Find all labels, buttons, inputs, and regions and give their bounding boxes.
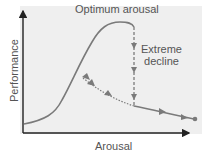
decline-label-line1: Extreme — [141, 43, 182, 55]
x-axis-label: Arousal — [95, 140, 132, 152]
arrowhead-right-icon — [159, 108, 166, 115]
optimum-arousal-label: Optimum arousal — [75, 3, 159, 15]
catastrophe-diagram — [0, 0, 206, 154]
arrowhead-left-icon — [82, 73, 90, 80]
arrowhead-left-icon — [104, 90, 112, 96]
performance-curve — [24, 22, 134, 124]
end-point-dot — [193, 117, 198, 122]
y-axis-label: Performance — [8, 42, 20, 102]
extreme-decline-label: Extreme decline — [141, 43, 182, 67]
arrowhead-down-icon — [131, 43, 137, 49]
arrowhead-down-icon — [131, 67, 137, 73]
decline-label-line2: decline — [141, 55, 182, 67]
arrowhead-down-icon — [131, 94, 137, 100]
